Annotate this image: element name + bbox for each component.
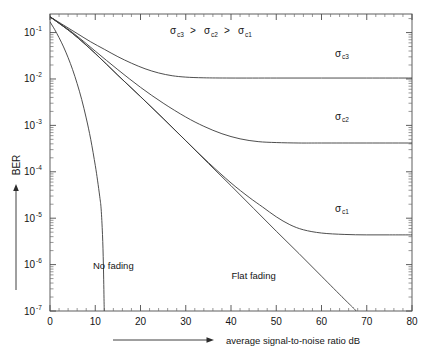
y-tick-label: 10-2 — [24, 71, 42, 84]
y-axis-title: BER — [11, 155, 22, 176]
y-tick-exponent: -7 — [36, 304, 42, 311]
y-tick-base: 10 — [24, 27, 36, 38]
x-tick-label: 60 — [316, 316, 328, 327]
curve-sigma-c2 — [50, 17, 412, 143]
sigma-symbol: σ — [335, 48, 342, 59]
inequality-operator: > — [190, 25, 196, 36]
sigma-symbol: σ — [170, 25, 177, 36]
sigma-subscript: c3 — [177, 31, 184, 38]
sigma-subscript: c1 — [245, 31, 252, 38]
y-tick-base: 10 — [24, 213, 36, 224]
sigma-symbol: σ — [335, 111, 342, 122]
sigma-symbol: σ — [204, 25, 211, 36]
y-axis-arrow-head — [13, 184, 19, 191]
series-text-label: Flat fading — [231, 270, 275, 281]
x-axis-title: average signal-to-noise ratio dB — [226, 335, 360, 346]
y-tick-exponent: -3 — [36, 118, 42, 125]
sigma-inequality-annotation: σc3 > σc2 > σc1 — [170, 25, 252, 38]
y-tick-base: 10 — [24, 259, 36, 270]
sigma-symbol: σ — [238, 25, 245, 36]
series-labels: No fadingFlat fadingσc1σc2σc3 — [93, 48, 349, 281]
y-tick-label: 10-7 — [24, 304, 42, 317]
ber-vs-snr-chart: 01020304050607080 10-110-210-310-410-510… — [0, 0, 433, 354]
y-tick-label: 10-3 — [24, 118, 42, 131]
y-tick-label: 10-6 — [24, 257, 42, 270]
y-axis-tick-labels: 10-110-210-310-410-510-610-7 — [24, 25, 42, 316]
y-axis-minor-ticks — [50, 19, 412, 297]
y-tick-base: 10 — [24, 120, 36, 131]
x-tick-label: 0 — [47, 316, 53, 327]
sigma-subscript: c3 — [342, 53, 349, 60]
y-tick-label: 10-4 — [24, 164, 42, 177]
y-tick-exponent: -5 — [36, 211, 42, 218]
series-text-label: No fading — [93, 260, 134, 271]
y-tick-base: 10 — [24, 73, 36, 84]
sigma-subscript: c2 — [342, 116, 349, 123]
x-tick-label: 80 — [406, 316, 418, 327]
y-tick-label: 10-1 — [24, 25, 42, 38]
sigma-subscript: c1 — [342, 208, 349, 215]
series-label-sigma-c3: σc3 — [335, 48, 349, 61]
x-axis-title-group: average signal-to-noise ratio dB — [113, 335, 360, 346]
x-tick-label: 30 — [180, 316, 192, 327]
x-axis-arrow-head — [207, 337, 215, 342]
series-label-flat-fading: Flat fading — [231, 270, 275, 281]
x-tick-label: 20 — [135, 316, 147, 327]
sigma-subscript: c2 — [211, 31, 218, 38]
x-tick-label: 70 — [361, 316, 373, 327]
series-label-sigma-c1: σc1 — [335, 203, 349, 216]
x-tick-label: 40 — [225, 316, 237, 327]
inequality-operator: > — [224, 25, 230, 36]
y-tick-base: 10 — [24, 306, 36, 317]
curve-sigma-c3 — [50, 17, 412, 78]
y-tick-base: 10 — [24, 166, 36, 177]
x-tick-label: 50 — [271, 316, 283, 327]
series-label-sigma-c2: σc2 — [335, 111, 349, 124]
y-tick-label: 10-5 — [24, 211, 42, 224]
y-tick-exponent: -1 — [36, 25, 42, 32]
x-tick-label: 10 — [90, 316, 102, 327]
y-tick-exponent: -6 — [36, 257, 42, 264]
y-axis-title-group: BER — [11, 155, 22, 290]
figure-container: 01020304050607080 10-110-210-310-410-510… — [0, 0, 433, 354]
sigma-symbol: σ — [335, 203, 342, 214]
y-tick-exponent: -4 — [36, 164, 42, 171]
series-label-no-fading: No fading — [93, 260, 134, 271]
y-tick-exponent: -2 — [36, 71, 42, 78]
x-axis-tick-labels: 01020304050607080 — [47, 316, 418, 327]
